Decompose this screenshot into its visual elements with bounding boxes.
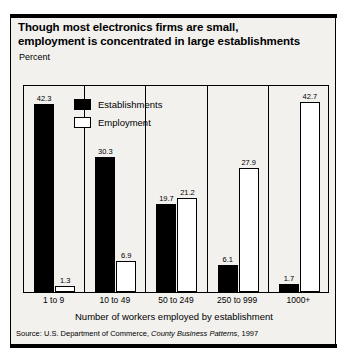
bar-value-label: 1.7: [275, 274, 303, 283]
chart-title-line2: employment is concentrated in large esta…: [18, 35, 330, 49]
bar-group: 1.742.7: [269, 86, 330, 292]
bar-employment: [300, 102, 320, 292]
bar-employment: [239, 168, 259, 292]
chart-title-line1: Though most electronics firms are small,: [18, 21, 330, 35]
bar-value-label: 42.3: [30, 94, 58, 103]
bottom-rule: [11, 344, 337, 348]
legend-swatch-establishments: [74, 99, 91, 110]
bar-establishments: [156, 204, 176, 292]
bar-value-label: 27.9: [235, 158, 263, 167]
bar-employment: [116, 261, 136, 292]
bar-establishments: [95, 157, 115, 292]
bar-group: 6.127.9: [208, 86, 269, 292]
bar-establishments: [34, 104, 54, 292]
bar-value-label: 42.7: [296, 92, 324, 101]
bar-value-label: 6.9: [112, 251, 140, 260]
plot-inner: 42.31.330.36.919.721.26.127.91.742.7: [24, 86, 328, 292]
chart-figure: Though most electronics firms are small,…: [10, 14, 336, 348]
plot-area: 42.31.330.36.919.721.26.127.91.742.7 Est…: [23, 85, 329, 293]
legend-swatch-employment: [74, 117, 91, 128]
legend-label-establishments: Establishments: [98, 99, 162, 110]
legend-item-employment: Employment: [74, 115, 162, 130]
x-tick-label: 250 to 999: [207, 295, 268, 305]
x-tick-label: 1000+: [268, 295, 329, 305]
top-rule: [11, 14, 337, 18]
y-axis-label: Percent: [19, 52, 50, 62]
x-tick-label: 50 to 249: [145, 295, 206, 305]
legend-label-employment: Employment: [98, 117, 151, 128]
bar-value-label: 30.3: [91, 147, 119, 156]
chart-legend: Establishments Employment: [74, 97, 162, 133]
bar-employment: [177, 198, 197, 292]
x-tick-label: 10 to 49: [84, 295, 145, 305]
bar-establishments: [218, 265, 238, 292]
x-axis-label: Number of workers employed by establishm…: [11, 311, 337, 322]
source-publication: County Business Patterns: [151, 329, 237, 338]
bar-employment: [55, 286, 75, 292]
source-note: Source: U.S. Department of Commerce, Cou…: [16, 329, 258, 338]
bar-value-label: 1.3: [51, 276, 79, 285]
x-tick-label: 1 to 9: [23, 295, 84, 305]
chart-title: Though most electronics firms are small,…: [18, 21, 330, 48]
bar-value-label: 21.2: [173, 188, 201, 197]
bar-establishments: [279, 284, 299, 292]
bar-value-label: 6.1: [214, 255, 242, 264]
source-suffix: , 1997: [237, 329, 258, 338]
legend-item-establishments: Establishments: [74, 97, 162, 112]
source-prefix: Source: U.S. Department of Commerce,: [16, 329, 151, 338]
